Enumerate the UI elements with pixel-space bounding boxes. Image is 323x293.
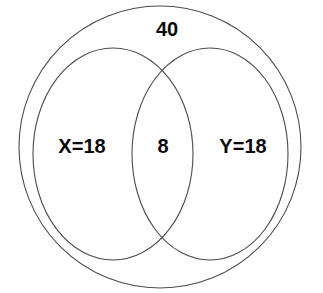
intersection-label: 8: [157, 135, 168, 157]
venn-diagram-canvas: 40 X=18 8 Y=18: [0, 0, 323, 293]
venn-diagram-figure: 40 X=18 8 Y=18: [0, 0, 323, 293]
universal-set-label: 40: [156, 18, 178, 40]
set-x-label: X=18: [58, 135, 105, 157]
set-y-label: Y=18: [219, 135, 266, 157]
set-x-ellipse: [33, 48, 193, 260]
